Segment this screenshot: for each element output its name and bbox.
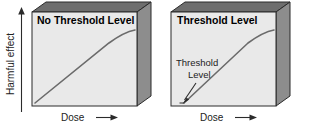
threshold-annotation-line1: Threshold (176, 57, 218, 68)
y-axis-arrow-head (18, 7, 25, 15)
panel-threshold: Threshold Level Threshold Level Dose (171, 2, 290, 123)
box-side-face-right (276, 2, 290, 106)
threshold-annotation-line2: Level (188, 69, 211, 80)
figure-canvas: Harmful effect No Threshold Level Dose (0, 0, 314, 127)
x-axis-group-right: Dose (200, 112, 257, 123)
x-axis-label-left: Dose (61, 112, 85, 123)
x-axis-group-left: Dose (61, 112, 118, 123)
box-side-face-left (137, 2, 151, 106)
panel-no-threshold: No Threshold Level Dose (32, 2, 151, 123)
box-top-face-left (32, 2, 151, 12)
x-axis-arrow-head-right (250, 114, 258, 120)
dose-response-figure: Harmful effect No Threshold Level Dose (0, 0, 314, 127)
panel-title-threshold: Threshold Level (177, 14, 258, 26)
y-axis-label: Harmful effect (5, 33, 16, 95)
box-top-face-right (171, 2, 290, 12)
x-axis-label-right: Dose (200, 112, 224, 123)
x-axis-arrow-head-left (111, 114, 119, 120)
y-axis-group: Harmful effect (5, 7, 25, 112)
panel-title-no-threshold: No Threshold Level (37, 14, 135, 26)
